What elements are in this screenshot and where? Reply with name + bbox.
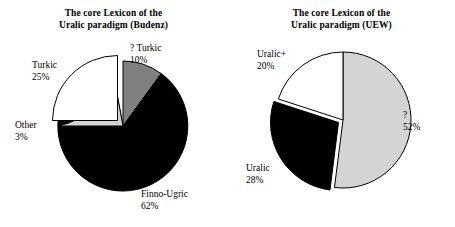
slice-label-turkic-name: Turkic: [32, 60, 57, 72]
slice-label-uralic-plus-pct: 20%: [257, 61, 286, 73]
pie-uew: [228, 0, 455, 227]
chart-panel-budenz: The core Lexicon of the Uralic paradigm …: [0, 0, 227, 227]
slice-label-finno-ugric: Finno-Ugric 62%: [141, 189, 188, 212]
slice-label-finno-ugric-pct: 62%: [141, 201, 188, 213]
slice-label-turkic: Turkic 25%: [32, 60, 57, 83]
slice-label-other-pct: 3%: [15, 132, 37, 144]
pie-budenz: [0, 0, 227, 227]
slice-label-uralic: Uralic 28%: [246, 163, 270, 186]
slice-label-turkic-pct: 25%: [32, 72, 57, 84]
slice-label-uralic-pct: 28%: [246, 175, 270, 187]
slice-label-uralic-name: Uralic: [246, 163, 270, 175]
slice-label-question-name: ?: [403, 110, 420, 122]
slice-label-other: Other 3%: [15, 120, 37, 143]
pie-slice-question: [334, 52, 411, 188]
slice-label-q-turkic-pct: 10%: [130, 55, 161, 67]
slice-label-other-name: Other: [15, 120, 37, 132]
slice-label-question: ? 52%: [403, 110, 420, 133]
pie-chart-figure: The core Lexicon of the Uralic paradigm …: [0, 0, 455, 227]
slice-label-q-turkic-name: ? Turkic: [130, 43, 161, 55]
pie-slice-turkic: [53, 56, 118, 121]
slice-label-uralic-plus: Uralic+ 20%: [257, 49, 286, 72]
slice-label-uralic-plus-name: Uralic+: [257, 49, 286, 61]
slice-label-q-turkic: ? Turkic 10%: [130, 43, 161, 66]
chart-panel-uew: The core Lexicon of the Uralic paradigm …: [228, 0, 455, 227]
slice-label-question-pct: 52%: [403, 122, 420, 134]
slice-label-finno-ugric-name: Finno-Ugric: [141, 189, 188, 201]
